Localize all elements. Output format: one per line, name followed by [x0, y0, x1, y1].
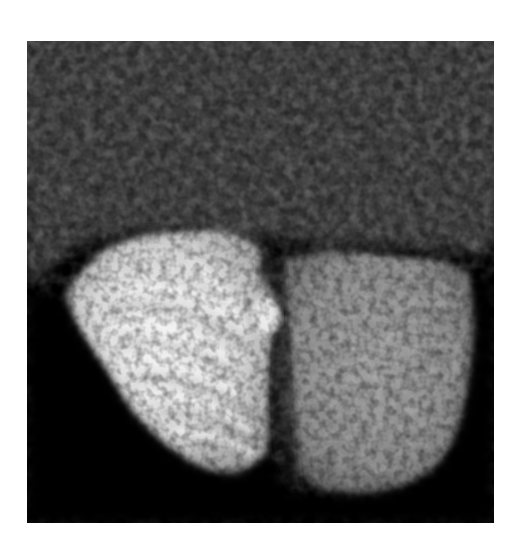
- scan-image: [27, 41, 494, 523]
- page-canvas: [0, 0, 523, 549]
- scan-rendering: [27, 41, 494, 523]
